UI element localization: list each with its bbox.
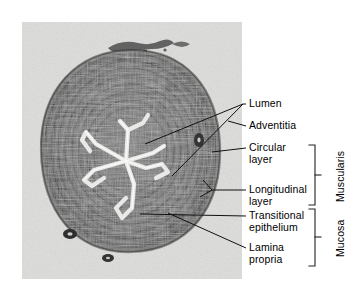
label-transitional-epithelium: Transitional epithelium bbox=[249, 210, 304, 233]
bracket-label-muscularis: Muscularis bbox=[334, 151, 346, 202]
label-adventitia: Adventitia bbox=[249, 120, 296, 132]
label-lamina-propria-line1: Lamina bbox=[249, 241, 284, 253]
label-longitudinal-layer: Longitudinal layer bbox=[249, 184, 307, 207]
label-longitudinal-layer-line2: layer bbox=[249, 196, 307, 208]
micrograph-canvas bbox=[22, 22, 242, 279]
bracket-mucosa bbox=[309, 209, 321, 266]
label-transitional-epithelium-line1: Transitional bbox=[249, 209, 304, 221]
bracket-muscularis bbox=[309, 145, 321, 205]
label-transitional-epithelium-line2: epithelium bbox=[249, 222, 304, 234]
label-adventitia-line1: Adventitia bbox=[249, 119, 296, 131]
label-circular-layer: Circular layer bbox=[249, 142, 286, 165]
label-longitudinal-layer-line1: Longitudinal bbox=[249, 183, 307, 195]
label-circular-layer-line2: layer bbox=[249, 154, 286, 166]
label-lamina-propria: Lamina propria bbox=[249, 242, 284, 265]
label-lumen: Lumen bbox=[249, 98, 282, 110]
label-circular-layer-line1: Circular bbox=[249, 141, 286, 153]
bracket-label-mucosa: Mucosa bbox=[334, 220, 346, 257]
label-lumen-line1: Lumen bbox=[249, 97, 282, 109]
label-lamina-propria-line2: propria bbox=[249, 254, 284, 266]
histology-figure: Lumen Adventitia Circular layer Longitud… bbox=[0, 0, 359, 293]
micrograph-image bbox=[22, 22, 242, 279]
